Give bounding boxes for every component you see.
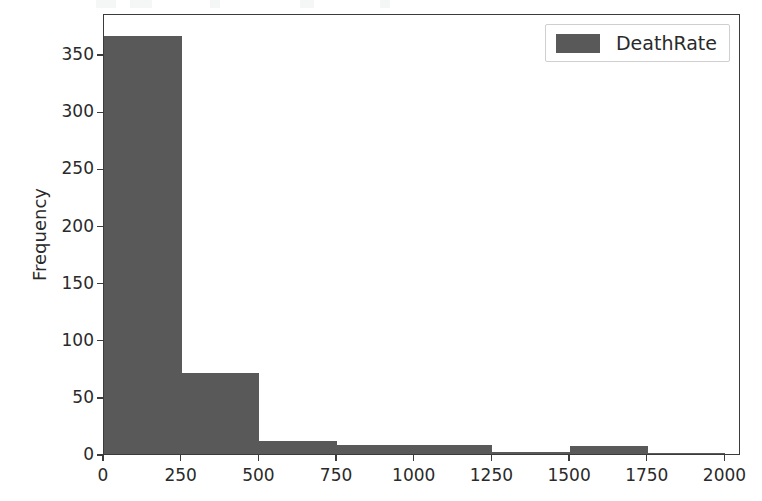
- legend-swatch-deathrate: [556, 34, 600, 53]
- x-tick-label: 250: [164, 465, 196, 485]
- x-tick-mark: [258, 455, 259, 461]
- y-tick-mark: [97, 112, 103, 113]
- x-tick-label: 1000: [392, 465, 435, 485]
- plot-area: [104, 15, 739, 454]
- x-tick-label: 1250: [470, 465, 513, 485]
- x-tick-label: 2000: [703, 465, 746, 485]
- x-tick-mark: [102, 455, 103, 461]
- histogram-bar: [648, 453, 726, 454]
- x-tick-mark: [335, 455, 336, 461]
- y-tick-mark: [97, 397, 103, 398]
- y-axis-label: Frequency: [26, 14, 52, 455]
- y-tick-label: 350: [62, 44, 94, 64]
- histogram-figure: DeathRate 050100150200250300350 02505007…: [0, 0, 762, 501]
- x-tick-mark: [724, 455, 725, 461]
- legend-label-deathrate: DeathRate: [616, 32, 717, 54]
- y-tick-mark: [97, 283, 103, 284]
- x-tick-mark: [180, 455, 181, 461]
- x-tick-mark: [646, 455, 647, 461]
- clipped-title-artifact: [90, 0, 510, 8]
- histogram-bar: [337, 445, 415, 454]
- y-tick-label: 300: [62, 101, 94, 121]
- y-tick-mark: [97, 54, 103, 55]
- x-tick-label: 0: [98, 465, 109, 485]
- y-tick-label: 50: [72, 387, 94, 407]
- y-tick-label: 200: [62, 216, 94, 236]
- y-tick-mark: [97, 169, 103, 170]
- legend[interactable]: DeathRate: [545, 24, 730, 62]
- y-tick-label: 0: [83, 444, 94, 464]
- histogram-bar: [570, 446, 648, 454]
- y-tick-label: 150: [62, 273, 94, 293]
- x-axis-ticks: 025050075010001250150017502000: [103, 455, 740, 501]
- x-tick-label: 1500: [547, 465, 590, 485]
- y-tick-mark: [97, 226, 103, 227]
- histogram-bar: [182, 373, 260, 454]
- x-tick-label: 750: [320, 465, 352, 485]
- x-tick-mark: [413, 455, 414, 461]
- histogram-bar: [259, 441, 337, 454]
- x-tick-label: 1750: [625, 465, 668, 485]
- x-tick-mark: [568, 455, 569, 461]
- y-tick-mark: [97, 340, 103, 341]
- plot-axes-frame: DeathRate: [103, 14, 740, 455]
- x-tick-label: 500: [242, 465, 274, 485]
- x-tick-mark: [491, 455, 492, 461]
- histogram-bar: [415, 445, 493, 454]
- y-tick-label: 250: [62, 158, 94, 178]
- histogram-bar: [104, 36, 182, 454]
- y-tick-label: 100: [62, 330, 94, 350]
- histogram-bar: [492, 452, 570, 454]
